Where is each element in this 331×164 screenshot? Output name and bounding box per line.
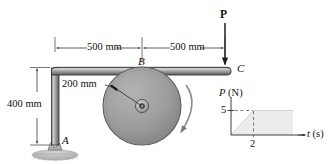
vertical-post [52, 68, 60, 145]
load-time-graph [228, 97, 306, 137]
graph-x-axis-label: t (s) [307, 129, 324, 140]
dimension-label-span-BC: 500 mm [170, 42, 205, 53]
point-label-C: C [237, 63, 244, 74]
pulley-disk [103, 67, 181, 145]
force-label-P: P [220, 9, 227, 21]
graph-y-tick-5: 5 [221, 105, 226, 116]
dimension-label-span-AB: 500 mm [87, 42, 122, 53]
ground-support [32, 143, 78, 161]
point-label-B: B [138, 56, 145, 67]
dimension-label-disk-radius: 200 mm [62, 79, 97, 90]
figure-canvas: 500 mm 500 mm 400 mm 200 mm A B C P P (N… [0, 0, 331, 164]
graph-x-axis-unit: (s) [313, 128, 324, 139]
graph-y-axis-label: P (N) [219, 88, 243, 99]
dimension-label-post-height: 400 mm [7, 99, 42, 110]
graph-x-tick-2: 2 [250, 139, 255, 150]
graph-y-axis-unit: (N) [228, 87, 243, 98]
mechanics-diagram [0, 0, 331, 164]
clockwise-rotation-arrow [181, 85, 192, 132]
point-label-A: A [62, 135, 69, 146]
